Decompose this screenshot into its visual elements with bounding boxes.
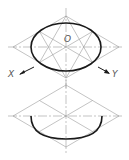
isometric-ellipse-figure: O X Y — [0, 0, 129, 160]
x-axis-label: X — [7, 69, 15, 79]
bottom-construction — [8, 80, 124, 153]
y-arrowhead-icon — [104, 69, 110, 74]
origin-label: O — [64, 34, 71, 44]
y-axis-label: Y — [112, 69, 119, 79]
diagram-svg: O X Y — [0, 0, 129, 160]
top-construction: O X Y — [7, 8, 124, 88]
x-arrowhead-icon — [19, 70, 25, 75]
bottom-half-ellipse — [31, 116, 102, 139]
